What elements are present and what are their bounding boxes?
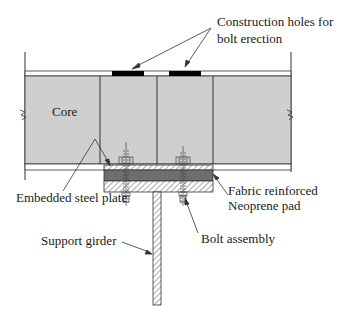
- leader-construction-hole-1: [135, 28, 211, 67]
- construction-hole: [169, 71, 201, 76]
- leader-support-girder: [122, 242, 149, 252]
- label-support-girder: Support girder: [41, 233, 116, 248]
- leader-bolt-assembly: [186, 201, 198, 233]
- label-construction-holes-line1: Construction holes for: [217, 14, 333, 29]
- leader-construction-hole-2: [187, 28, 211, 64]
- label-core: Core: [52, 104, 77, 119]
- construction-hole: [112, 71, 144, 76]
- label-bolt-assembly: Bolt assembly: [201, 231, 275, 246]
- label-embedded-plate: Embedded steel plate: [16, 190, 127, 205]
- sandwich-panel-connection-diagram: [0, 0, 347, 325]
- core: [25, 76, 291, 164]
- neoprene-pad: [104, 170, 213, 181]
- label-construction-holes-line2: bolt erection: [217, 31, 282, 46]
- top-face-sheet: [25, 71, 291, 76]
- label-neoprene-line1: Fabric reinforced: [228, 183, 318, 198]
- girder-web: [153, 192, 161, 305]
- label-neoprene-line2: Neoprene pad: [228, 198, 301, 213]
- embedded-steel-plate: [104, 165, 213, 170]
